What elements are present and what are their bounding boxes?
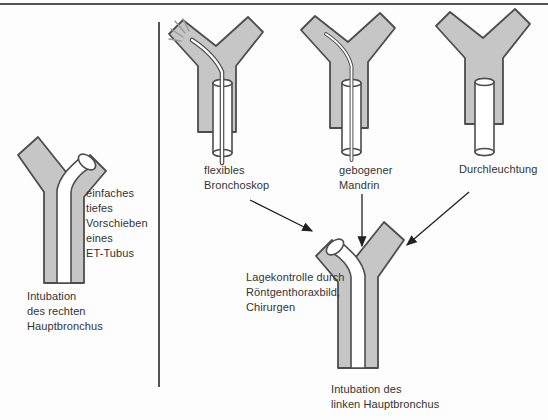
panel-divider-line [158,22,160,387]
bent-stylet-diagram [298,10,398,168]
flexible-bronchoscope-diagram [166,14,266,172]
bottom-result-label: Intubation des linken Hauptbronchus [331,382,439,412]
arrow-bronchoscope-to-result [250,200,312,231]
left-method-label: einfaches tiefes Vorschieben eines ET-Tu… [86,186,148,261]
method-label-bronchoscope: flexibles Bronchoskop [204,163,269,193]
position-control-label: Lagekontrolle durch Röntgenthoraxbild, C… [246,270,345,315]
fluoroscopy-diagram [433,6,533,164]
method-label-fluoroscopy: Durchleuchtung [459,162,537,177]
et-tube-cylinder [475,79,494,156]
left-result-label: Intubation des rechten Hauptbronchus [27,289,103,334]
method-label-stylet: gebogener Mandrin [339,163,393,193]
top-border-line [0,3,548,5]
arrow-fluoroscopy-to-result [407,192,469,245]
figure-canvas: einfaches tiefes Vorschieben eines ET-Tu… [0,0,548,420]
